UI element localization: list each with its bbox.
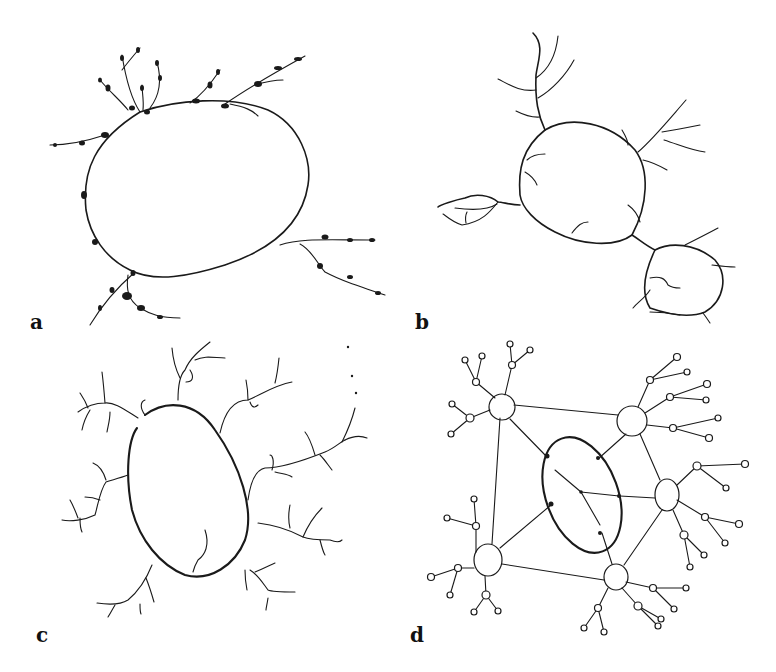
panel-label-d: d xyxy=(410,625,424,645)
panel-a-drawing xyxy=(50,47,385,325)
panel-label-b: b xyxy=(415,312,429,332)
panel-c-drawing xyxy=(62,342,367,617)
figure: a b c d xyxy=(0,0,776,672)
panel-b-drawing xyxy=(438,33,735,323)
panel-d-drawing xyxy=(428,341,749,635)
panel-label-c: c xyxy=(36,625,48,645)
panel-label-a: a xyxy=(30,312,43,332)
figure-drawing xyxy=(0,0,776,672)
